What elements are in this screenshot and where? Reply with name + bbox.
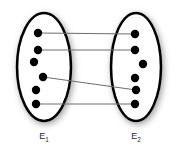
set-label-subscript: 2 xyxy=(137,136,141,143)
set-relation-diagram: E1E2 xyxy=(0,0,174,152)
set-element-dot xyxy=(34,29,42,37)
set-element-dot xyxy=(32,100,40,108)
set-element-dot xyxy=(30,58,38,66)
set-element-dot xyxy=(139,60,147,68)
diagram-canvas: E1E2 xyxy=(0,0,174,152)
set-element-dot xyxy=(131,46,139,54)
ellipse-outline xyxy=(17,13,71,121)
set-element-dot xyxy=(34,46,42,54)
set-ellipse-E1 xyxy=(17,13,71,121)
set-element-dot xyxy=(131,100,139,108)
set-element-dot xyxy=(39,73,47,81)
set-label-E1: E1 xyxy=(39,131,49,143)
set-element-dot xyxy=(131,30,139,38)
set-label-E2: E2 xyxy=(131,131,141,143)
set-labels: E1E2 xyxy=(39,131,141,143)
set-element-dot xyxy=(32,86,40,94)
set-element-dot xyxy=(132,86,140,94)
set-label-subscript: 1 xyxy=(45,136,49,143)
set-element-dot xyxy=(131,74,139,82)
